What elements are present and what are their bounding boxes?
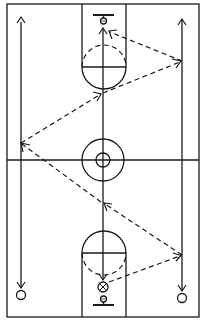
pass-2-arrow (104, 203, 182, 255)
top-free-throw-arc-dashed (82, 45, 126, 67)
right-player-marker (178, 294, 187, 303)
left-player-run-arrow (17, 17, 25, 288)
ball-handler-marker (98, 282, 108, 292)
top-free-throw-arc-solid (82, 67, 126, 89)
basketball-court-diagram: Three-lane passing drill (0, 0, 203, 322)
left-player-marker (17, 291, 26, 300)
pass-3-arrow (21, 143, 101, 202)
pass-4-arrow (21, 92, 101, 143)
bottom-basket-icon (93, 296, 114, 305)
pass-6-arrow (109, 30, 182, 61)
bottom-free-throw-arc-solid (82, 231, 126, 253)
top-basket-icon (93, 15, 114, 24)
bottom-free-throw-arc-dashed (82, 253, 126, 275)
pass-5-arrow (103, 59, 181, 93)
